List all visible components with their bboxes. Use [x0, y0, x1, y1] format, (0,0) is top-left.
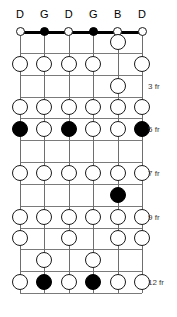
note-fret-5-string-5 [110, 121, 126, 137]
open-note-string-4 [89, 27, 98, 36]
fret-line-4 [20, 118, 142, 119]
note-fret-11-string-4 [85, 252, 101, 268]
note-fret-7-string-3 [61, 165, 77, 181]
fret-line-6 [20, 162, 142, 163]
note-fret-4-string-1 [12, 99, 28, 115]
fret-line-7 [20, 184, 142, 185]
open-note-string-1 [16, 27, 25, 36]
note-fret-10-string-5 [110, 230, 126, 246]
note-fret-12-string-3 [61, 274, 77, 290]
note-fret-5-string-4 [85, 121, 101, 137]
nut-line [20, 31, 142, 34]
open-note-string-2 [40, 27, 49, 36]
note-fret-2-string-1 [12, 56, 28, 72]
note-fret-9-string-4 [85, 209, 101, 225]
fret-line-2 [20, 75, 142, 76]
note-fret-10-string-3 [61, 230, 77, 246]
fretboard-diagram: DGDGBD 3 fr5 fr7 fr9 fr12 fr [0, 0, 177, 317]
string-label-5: B [111, 8, 125, 20]
fret-marker-7: 7 fr [148, 169, 160, 178]
note-fret-7-string-4 [85, 165, 101, 181]
note-fret-9-string-3 [61, 209, 77, 225]
string-label-6: D [135, 8, 149, 20]
note-fret-3-string-5 [110, 78, 126, 94]
note-fret-10-string-6 [134, 230, 150, 246]
note-fret-12-string-4 [85, 274, 101, 290]
note-fret-7-string-1 [12, 165, 28, 181]
note-fret-7-string-5 [110, 165, 126, 181]
note-fret-4-string-6 [134, 99, 150, 115]
fret-line-12 [20, 293, 142, 294]
note-fret-9-string-5 [110, 209, 126, 225]
note-fret-11-string-2 [36, 252, 52, 268]
note-fret-12-string-2 [36, 274, 52, 290]
fret-line-5 [20, 140, 142, 141]
note-fret-8-string-5 [110, 187, 126, 203]
open-note-string-6 [138, 27, 147, 36]
string-line-5 [118, 31, 119, 293]
note-fret-9-string-1 [12, 209, 28, 225]
fret-line-3 [20, 97, 142, 98]
fret-line-1 [20, 53, 142, 54]
note-fret-2-string-2 [36, 56, 52, 72]
note-fret-7-string-2 [36, 165, 52, 181]
note-fret-4-string-5 [110, 99, 126, 115]
fret-line-9 [20, 228, 142, 229]
note-fret-12-string-1 [12, 274, 28, 290]
note-fret-2-string-3 [61, 56, 77, 72]
string-label-1: D [13, 8, 27, 20]
fret-line-8 [20, 206, 142, 207]
fret-marker-12: 12 fr [148, 278, 164, 287]
note-fret-4-string-3 [61, 99, 77, 115]
string-label-2: G [37, 8, 51, 20]
note-fret-12-string-5 [110, 274, 126, 290]
note-fret-4-string-2 [36, 99, 52, 115]
string-label-3: D [62, 8, 76, 20]
fretboard-grid [20, 31, 142, 293]
note-fret-4-string-4 [85, 99, 101, 115]
note-fret-5-string-1 [12, 121, 28, 137]
fret-line-11 [20, 271, 142, 272]
fret-marker-9: 9 fr [148, 213, 160, 222]
fret-marker-5: 5 fr [148, 125, 160, 134]
fret-marker-3: 3 fr [148, 82, 160, 91]
note-fret-9-string-2 [36, 209, 52, 225]
note-fret-5-string-2 [36, 121, 52, 137]
string-label-4: G [86, 8, 100, 20]
note-fret-5-string-3 [61, 121, 77, 137]
note-fret-1-string-5 [110, 34, 126, 50]
note-fret-2-string-6 [134, 56, 150, 72]
note-fret-10-string-1 [12, 230, 28, 246]
fret-line-10 [20, 249, 142, 250]
note-fret-2-string-4 [85, 56, 101, 72]
open-note-string-3 [64, 27, 73, 36]
